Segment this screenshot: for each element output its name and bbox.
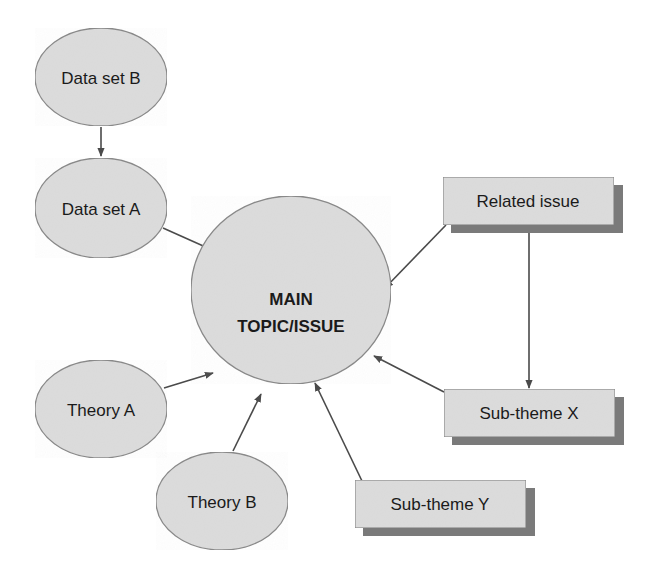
- edge-sub-theme-y-to-main: [315, 383, 362, 481]
- concept-map-canvas: Data set B Data set A MAIN TOPIC/ISSUE T…: [0, 0, 656, 577]
- node-label: Theory B: [188, 493, 257, 512]
- node-label: Sub-theme Y: [391, 495, 490, 514]
- node-label: Theory A: [67, 401, 136, 420]
- edge-theory-a-to-main: [164, 373, 213, 388]
- node-label: Data set B: [61, 69, 140, 88]
- node-theory-b: Theory B: [156, 452, 288, 550]
- node-label: Sub-theme X: [479, 404, 578, 423]
- main-topic-line2: TOPIC/ISSUE: [237, 317, 344, 336]
- edge-related-issue-to-main: [385, 225, 446, 288]
- edge-sub-theme-x-to-main: [374, 356, 444, 392]
- node-data-set-a: Data set A: [35, 158, 167, 258]
- node-sub-theme-x: Sub-theme X: [444, 389, 624, 445]
- node-label: Data set A: [62, 200, 141, 219]
- node-related-issue: Related issue: [443, 177, 623, 233]
- main-topic-line1: MAIN: [269, 290, 312, 309]
- node-data-set-b: Data set B: [35, 28, 167, 126]
- edge-theory-b-to-main: [233, 394, 261, 451]
- node-main-topic: MAIN TOPIC/ISSUE: [191, 196, 391, 384]
- node-theory-a: Theory A: [35, 360, 167, 458]
- node-sub-theme-y: Sub-theme Y: [355, 480, 535, 536]
- node-label: Related issue: [476, 192, 579, 211]
